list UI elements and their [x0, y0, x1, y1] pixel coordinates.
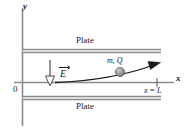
diagram-canvas: [0, 0, 190, 133]
top-plate: [22, 50, 161, 53]
top-plate-label: Plate: [76, 36, 94, 45]
bottom-plate-label: Plate: [76, 102, 94, 111]
y-axis-label: y: [23, 2, 27, 11]
physics-diagram-figure: y x 0 Plate Plate E m, Q x = L: [0, 0, 190, 133]
origin-label: 0: [13, 85, 18, 94]
electric-field-label: E: [60, 69, 66, 79]
particle-mass-charge-label: m, Q: [107, 57, 123, 65]
charged-particle: [115, 67, 124, 76]
x-axis-label: x: [176, 74, 181, 83]
exit-position-label: x = L: [144, 87, 161, 95]
bottom-plate: [22, 97, 161, 100]
